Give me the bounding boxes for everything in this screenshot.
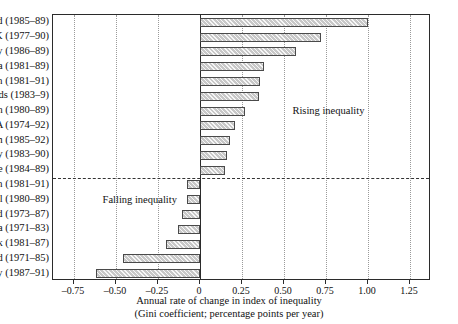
bar — [187, 180, 200, 189]
category-label: Finland (1971–85) — [0, 251, 49, 264]
category-label: France (1984–89) — [0, 162, 49, 175]
x-axis-title-line1: Annual rate of change in index of inequa… — [0, 294, 458, 307]
gridline--0.5 — [116, 15, 117, 279]
bar — [200, 62, 264, 71]
x-axis-title-line2: (Gini coefficient; percentage points per… — [0, 307, 458, 320]
category-label: Belgium (1985–92) — [0, 133, 49, 146]
category-label: Australia (1981–89) — [0, 59, 49, 72]
bar — [200, 47, 296, 56]
gridline-0.75 — [326, 15, 327, 279]
bar — [200, 151, 227, 160]
bar — [178, 225, 200, 234]
rising-falling-separator — [53, 178, 429, 179]
plot-area: Rising inequalityFalling inequality — [52, 14, 430, 280]
gridline-1 — [368, 15, 369, 279]
bar — [200, 136, 230, 145]
bar — [166, 240, 200, 249]
gridline-1.25 — [410, 15, 411, 279]
bar — [200, 107, 245, 116]
category-label: Ireland (1973–87) — [0, 207, 49, 220]
category-label: Italy (1987–91) — [0, 266, 49, 279]
category-label: USA (1974–92) — [0, 118, 49, 131]
bar — [200, 166, 225, 175]
category-axis-labels: New Zealand (1985–89)UK (1977–90)Norway … — [0, 14, 52, 280]
category-label: Japan (1980–89) — [0, 103, 49, 116]
inequality-bar-chart: New Zealand (1985–89)UK (1977–90)Norway … — [0, 0, 458, 324]
category-label: Norway (1986–89) — [0, 44, 49, 57]
bar — [200, 77, 260, 86]
bar — [96, 269, 200, 278]
category-label: New Zealand (1985–89) — [0, 14, 49, 27]
annotation-falling: Falling inequality — [103, 193, 177, 206]
category-label: Denmark (1981–87) — [0, 236, 49, 249]
gridline--0.75 — [74, 15, 75, 279]
category-label: Sweden (1981–91) — [0, 74, 49, 87]
category-label: Spain (1981–91) — [0, 177, 49, 190]
bar — [123, 254, 200, 263]
bar — [200, 121, 235, 130]
bar — [200, 18, 368, 27]
category-label: West Germany (1983–90) — [0, 147, 49, 160]
bar — [200, 92, 259, 101]
bar — [182, 210, 200, 219]
bar — [200, 33, 321, 42]
annotation-rising: Rising inequality — [292, 104, 364, 117]
category-label: Portugal (1980–89) — [0, 192, 49, 205]
category-label: UK (1977–90) — [0, 29, 49, 42]
bar — [187, 195, 200, 204]
gridline--0.25 — [158, 15, 159, 279]
category-label: Netherlands (1983–9) — [0, 88, 49, 101]
category-label: Canada (1971–83) — [0, 221, 49, 234]
